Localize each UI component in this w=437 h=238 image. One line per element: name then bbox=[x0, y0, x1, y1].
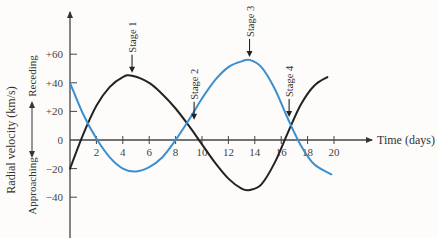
x-axis-ticks: 2468101214161820 bbox=[94, 136, 340, 158]
y-tick-label: −40 bbox=[46, 191, 64, 203]
stage-3-annotation: Stage 3 bbox=[245, 6, 256, 57]
radial-velocity-chart: +60+40+200−20−40 2468101214161820 Stage … bbox=[0, 0, 437, 238]
x-tick-label: 2 bbox=[94, 146, 100, 158]
receding-label: Receding bbox=[26, 55, 38, 97]
x-tick-label: 20 bbox=[329, 146, 341, 158]
y-tick-label: 0 bbox=[58, 134, 64, 146]
y-tick-label: +60 bbox=[46, 48, 64, 60]
stage-4-annotation: Stage 4 bbox=[284, 65, 295, 117]
stage-label: Stage 1 bbox=[127, 21, 138, 52]
x-tick-label: 4 bbox=[120, 146, 126, 158]
y-axis-title: Radial velocity (km/s) bbox=[4, 86, 18, 193]
x-tick-label: 6 bbox=[146, 146, 152, 158]
stage-2-annotation: Stage 2 bbox=[189, 69, 200, 120]
direction-double-arrow bbox=[29, 101, 35, 158]
stage-1-annotation: Stage 1 bbox=[127, 21, 138, 72]
approaching-label: Approaching bbox=[26, 157, 38, 215]
y-tick-label: +40 bbox=[46, 77, 64, 89]
stage-label: Stage 3 bbox=[245, 6, 256, 37]
stage-label: Stage 2 bbox=[189, 69, 200, 100]
x-tick-label: 14 bbox=[249, 146, 261, 158]
x-tick-label: 12 bbox=[223, 146, 234, 158]
y-tick-label: −20 bbox=[46, 163, 64, 175]
x-axis-title: Time (days) bbox=[377, 133, 435, 147]
axes bbox=[70, 12, 372, 238]
y-axis-ticks: +60+40+200−20−40 bbox=[46, 48, 77, 203]
x-tick-label: 8 bbox=[173, 146, 179, 158]
stage-annotations: Stage 1Stage 2Stage 3Stage 4 bbox=[127, 6, 295, 120]
y-tick-label: +20 bbox=[46, 105, 64, 117]
stage-label: Stage 4 bbox=[284, 65, 295, 97]
